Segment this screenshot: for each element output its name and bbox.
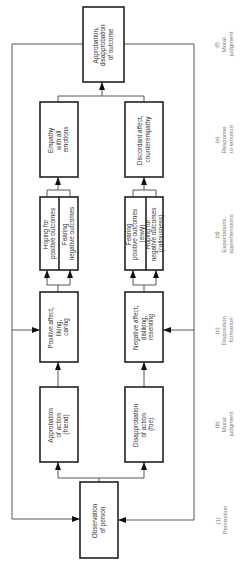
box-text: counterempathy (144, 116, 152, 163)
box-text: resenting (147, 313, 155, 340)
box-text: Positive affect, (47, 307, 54, 349)
box-right-expectations: Fearing positive outcomes (envy) Hoping … (125, 197, 166, 270)
box-observation: Observation of person (80, 482, 118, 558)
box-text: positive outcomes (49, 208, 57, 259)
box-text: of action (55, 413, 62, 438)
stage-label-response-to-emotion: (e) Response to emotion (214, 125, 234, 154)
svg-text:Approbation, disapprobat: Approbation, disapprobation of outcome (92, 23, 114, 67)
box-text: (callousness) (157, 215, 165, 253)
stage-label-disposition-formation: (c) Disposition formation (214, 314, 234, 345)
arrow-up-icon (141, 177, 147, 185)
arrow-up-icon (141, 462, 147, 470)
box-left-expectations: Hoping for positive outcomes Fearing neg… (40, 197, 78, 270)
arrow-into-observation-right-icon (118, 517, 126, 523)
judgment-to-affect-arrows (55, 362, 147, 387)
box-text: (friend) (62, 414, 70, 434)
box-text: of action (140, 413, 147, 438)
affect-to-expectation-forks (44, 270, 159, 292)
arrow-up-icon (55, 462, 61, 470)
box-negative-affect: Negative affect, disliking, resenting (125, 292, 163, 362)
svg-text:Empathy with all e: Empathy with all emotions (47, 126, 69, 153)
box-discordant-affect: Discordant affect, counterempathy (125, 102, 163, 177)
box-empathy: Empathy with all emotions (40, 102, 78, 177)
box-approbation-action: Approbation of action (friend) (40, 387, 78, 462)
svg-text:Discordant affect, count: Discordant affect, counterempathy (136, 114, 152, 165)
box-text: Discordant affect, (136, 115, 143, 165)
box-text: (foe) (147, 418, 155, 431)
arrow-up-icon (67, 270, 73, 278)
box-outcome-judgment: Approbation, disapprobation of outcome (83, 7, 124, 82)
box-positive-affect: Positive affect, liking, caring (40, 292, 78, 362)
box-disapprobation-action: Disapprobation of action (foe) (125, 387, 163, 462)
arrow-into-negative-affect-icon (163, 327, 171, 333)
box-text: negative outcomes (68, 207, 76, 261)
arrow-up-icon (153, 270, 159, 278)
response-to-outcome-merge (58, 82, 144, 102)
arrow-up-icon (55, 177, 61, 185)
box-text: caring (62, 318, 70, 336)
arrow-into-positive-affect-icon (32, 327, 40, 333)
observation-fork (55, 462, 147, 482)
arrow-up-icon (141, 362, 147, 370)
arrow-up-icon (130, 270, 136, 278)
box-text: emotions (62, 127, 69, 153)
arrow-up-icon (44, 270, 50, 278)
stage-label-moral-judgment-b: (b) Moral judgment (214, 411, 234, 437)
box-text: of person (99, 506, 107, 533)
stage-labels: (1) Perception (b) Moral judgment (c) Di… (214, 31, 234, 534)
stage-label-moral-judgment-f: (f) Moral judgment (214, 31, 234, 57)
stage-label-perception: (1) Perception (215, 506, 228, 535)
stage-label-expectations: (d) Expectations, apprehensions (214, 214, 234, 253)
disposition-model-diagram: Approbation, disapprobation of outcome E… (0, 0, 250, 566)
svg-text:Observation of person: Observation of person (91, 502, 107, 538)
box-text: Observation (91, 503, 98, 538)
expectation-to-response-merges (47, 177, 156, 197)
box-text: of outcome (107, 28, 114, 60)
arrow-into-observation-left-icon (72, 516, 80, 522)
arrow-up-icon (55, 362, 61, 370)
box-text: with all (55, 131, 62, 152)
arrow-up-icon (99, 82, 105, 90)
